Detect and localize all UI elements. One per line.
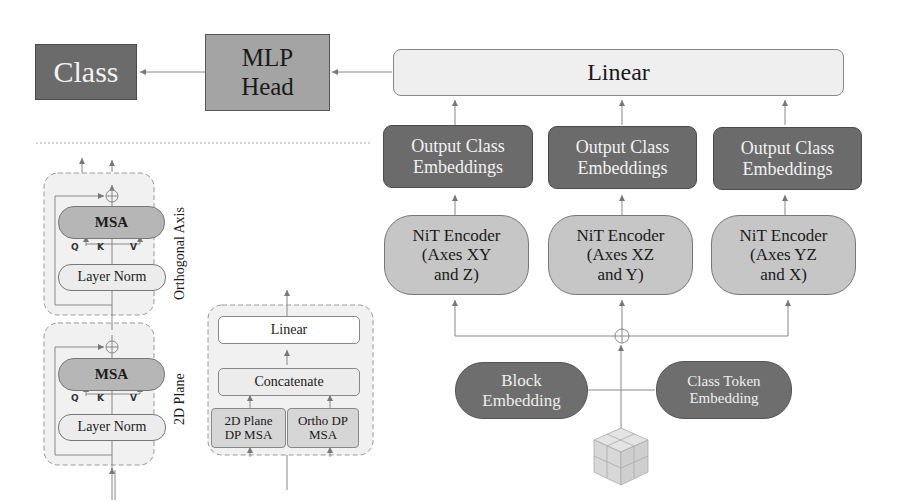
nit-encoder-xz: NiT Encoder (Axes XZ and Y) xyxy=(548,215,693,295)
v-label: V xyxy=(130,393,137,403)
output-line-2: Embeddings xyxy=(413,157,503,178)
nit-encoder-xy: NiT Encoder (Axes XY and Z) xyxy=(384,215,529,295)
concatenate-box: Concatenate xyxy=(218,368,360,396)
output-class-embeddings-xy: Output Class Embeddings xyxy=(383,125,533,188)
mlp-head-line-2: Head xyxy=(241,73,294,102)
class-label: Class xyxy=(53,55,118,90)
layer-norm-label: Layer Norm xyxy=(78,269,147,285)
output-class-embeddings-xz: Output Class Embeddings xyxy=(548,126,697,189)
plane-label: 2D Plane xyxy=(172,373,188,425)
class-token-line-2: Embedding xyxy=(689,390,758,407)
encoder-line-3: and Y) xyxy=(597,265,643,285)
msa-plane: MSA xyxy=(58,358,165,391)
msa-label: MSA xyxy=(95,214,128,231)
linear-label: Linear xyxy=(587,59,650,87)
nit-encoder-yz: NiT Encoder (Axes YZ and X) xyxy=(711,215,856,295)
class-token-line-1: Class Token xyxy=(687,373,760,390)
ortho-dp-line-1: Ortho DP xyxy=(298,414,348,428)
class-token-embedding: Class Token Embedding xyxy=(656,361,792,419)
encoder-line-2: (Axes XZ xyxy=(587,245,655,265)
block-embedding-line-2: Embedding xyxy=(482,391,560,411)
concatenate-label: Concatenate xyxy=(254,374,323,390)
layer-norm-plane: Layer Norm xyxy=(58,414,166,441)
plane-dp-msa-box: 2D Plane DP MSA xyxy=(211,408,286,448)
msa-label: MSA xyxy=(95,366,128,383)
block-embedding-line-1: Block xyxy=(501,371,542,391)
output-line-1: Output Class xyxy=(411,136,505,157)
k-label: K xyxy=(97,242,104,252)
output-line-1: Output Class xyxy=(741,138,835,159)
encoder-line-1: NiT Encoder xyxy=(413,226,501,246)
output-line-2: Embeddings xyxy=(578,158,668,179)
plane-dp-line-1: 2D Plane xyxy=(224,414,272,428)
q-label: Q xyxy=(71,393,79,403)
v-label: V xyxy=(130,242,137,252)
output-line-2: Embeddings xyxy=(743,159,833,180)
encoder-line-1: NiT Encoder xyxy=(740,226,828,246)
ortho-dp-msa-box: Ortho DP MSA xyxy=(287,408,359,448)
linear-box: Linear xyxy=(393,49,844,96)
layer-norm-label: Layer Norm xyxy=(78,419,147,435)
plane-dp-line-2: DP MSA xyxy=(225,428,273,442)
encoder-line-2: (Axes YZ xyxy=(750,245,817,265)
output-line-1: Output Class xyxy=(576,137,670,158)
k-label: K xyxy=(97,393,104,403)
encoder-line-3: and X) xyxy=(760,265,807,285)
ortho-dp-line-2: MSA xyxy=(309,428,337,442)
layer-norm-orthogonal: Layer Norm xyxy=(58,264,166,291)
encoder-line-1: NiT Encoder xyxy=(577,226,665,246)
class-output-box: Class xyxy=(35,44,137,100)
orthogonal-axis-label: Orthogonal Axis xyxy=(172,207,188,300)
cube-volume-icon xyxy=(594,428,648,485)
encoder-line-3: and Z) xyxy=(434,265,479,285)
dp-linear-box: Linear xyxy=(218,316,360,344)
block-embedding: Block Embedding xyxy=(455,362,588,419)
mlp-head-box: MLP Head xyxy=(205,34,330,111)
encoder-line-2: (Axes XY xyxy=(422,245,491,265)
output-class-embeddings-yz: Output Class Embeddings xyxy=(713,127,862,190)
mlp-head-line-1: MLP xyxy=(242,44,293,73)
q-label: Q xyxy=(71,242,79,252)
dp-linear-label: Linear xyxy=(271,322,308,338)
msa-orthogonal: MSA xyxy=(58,206,165,239)
